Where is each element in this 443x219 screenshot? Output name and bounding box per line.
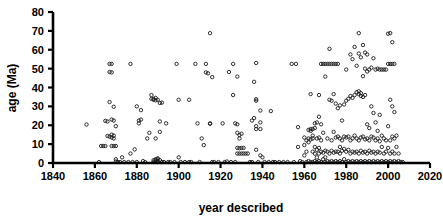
data-point bbox=[269, 109, 272, 112]
data-point bbox=[254, 148, 257, 151]
data-point bbox=[386, 146, 389, 149]
x-axis-title: year described bbox=[199, 201, 284, 215]
x-tick-label: 1880 bbox=[125, 170, 149, 182]
data-point bbox=[221, 122, 224, 125]
data-point bbox=[386, 124, 389, 127]
data-point bbox=[389, 139, 392, 142]
y-tick-label: 50 bbox=[32, 63, 44, 75]
x-tick-label: 1940 bbox=[250, 170, 274, 182]
data-point bbox=[370, 105, 373, 108]
data-point bbox=[353, 45, 356, 48]
data-point bbox=[148, 131, 151, 134]
y-tick-label: 40 bbox=[32, 82, 44, 94]
data-point bbox=[397, 152, 400, 155]
data-point bbox=[204, 62, 207, 65]
data-point bbox=[177, 156, 180, 159]
data-point bbox=[372, 111, 375, 114]
data-point bbox=[374, 121, 377, 124]
data-point bbox=[85, 123, 88, 126]
data-point bbox=[319, 123, 322, 126]
data-point bbox=[332, 92, 335, 95]
data-point bbox=[395, 145, 398, 148]
data-point bbox=[361, 74, 364, 77]
data-point bbox=[376, 129, 379, 132]
data-point bbox=[391, 105, 394, 108]
data-point bbox=[380, 145, 383, 148]
data-point bbox=[328, 47, 331, 50]
data-point bbox=[305, 150, 308, 153]
data-point bbox=[202, 143, 205, 146]
data-point bbox=[359, 56, 362, 59]
x-tick-label: 1860 bbox=[83, 170, 107, 182]
data-point bbox=[294, 62, 297, 65]
y-axis-title: age (Ma) bbox=[5, 64, 19, 113]
data-point bbox=[106, 120, 109, 123]
y-tick-label: 70 bbox=[32, 25, 44, 37]
data-point bbox=[194, 62, 197, 65]
data-point bbox=[196, 122, 199, 125]
data-point bbox=[319, 139, 322, 142]
data-point bbox=[177, 98, 180, 101]
x-tick-label: 1840 bbox=[41, 170, 65, 182]
data-point bbox=[135, 105, 138, 108]
data-point bbox=[129, 62, 132, 65]
data-point bbox=[355, 64, 358, 67]
data-point bbox=[309, 92, 312, 95]
data-point bbox=[231, 62, 234, 65]
data-point bbox=[146, 137, 149, 140]
data-point bbox=[120, 156, 123, 159]
data-point bbox=[326, 137, 329, 140]
data-point bbox=[391, 41, 394, 44]
data-point bbox=[208, 31, 211, 34]
data-point bbox=[238, 137, 241, 140]
x-tick-label: 2000 bbox=[376, 170, 400, 182]
data-point bbox=[200, 137, 203, 140]
data-point bbox=[315, 156, 318, 159]
scatter-plot-figure: 1840186018801900192019401960198020002020… bbox=[0, 0, 443, 219]
data-point bbox=[259, 121, 262, 124]
data-point bbox=[296, 125, 299, 128]
data-point bbox=[139, 108, 142, 111]
data-point bbox=[317, 115, 320, 118]
data-point bbox=[210, 75, 213, 78]
y-tick-label: 60 bbox=[32, 44, 44, 56]
data-point bbox=[372, 57, 375, 60]
data-point bbox=[187, 98, 190, 101]
data-point bbox=[393, 110, 396, 113]
x-tick-label: 1980 bbox=[334, 170, 358, 182]
data-point bbox=[349, 53, 352, 56]
x-tick-label: 1960 bbox=[292, 170, 316, 182]
data-point bbox=[236, 75, 239, 78]
data-point bbox=[164, 122, 167, 125]
data-point bbox=[259, 127, 262, 130]
y-tick-label: 80 bbox=[32, 6, 44, 18]
y-tick-label: 30 bbox=[32, 100, 44, 112]
chart-canvas: 1840186018801900192019401960198020002020… bbox=[0, 0, 443, 219]
data-point-group bbox=[85, 31, 405, 163]
data-point bbox=[351, 57, 354, 60]
data-point bbox=[389, 31, 392, 34]
y-tick-labels: 01020304050607080 bbox=[32, 6, 44, 169]
x-tick-labels: 1840186018801900192019401960198020002020 bbox=[41, 170, 442, 182]
data-point bbox=[303, 154, 306, 157]
data-point bbox=[254, 61, 257, 64]
data-point bbox=[158, 130, 161, 133]
data-point bbox=[389, 98, 392, 101]
data-point bbox=[357, 31, 360, 34]
data-point bbox=[303, 143, 306, 146]
data-point bbox=[321, 131, 324, 134]
y-tick-label: 20 bbox=[32, 119, 44, 131]
data-point bbox=[334, 102, 337, 105]
data-point bbox=[175, 62, 178, 65]
data-point bbox=[158, 120, 161, 123]
data-point bbox=[340, 119, 343, 122]
y-tick-label: 10 bbox=[32, 138, 44, 150]
data-point bbox=[290, 62, 293, 65]
x-tick-label: 1900 bbox=[166, 170, 190, 182]
data-point bbox=[231, 93, 234, 96]
y-tick-label: 0 bbox=[38, 157, 44, 169]
data-point bbox=[108, 100, 111, 103]
data-point bbox=[133, 148, 136, 151]
data-point bbox=[357, 52, 360, 55]
data-point bbox=[330, 139, 333, 142]
